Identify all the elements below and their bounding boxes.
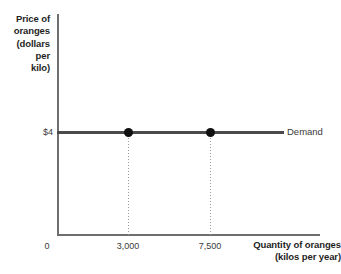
- drop-line-3000: [128, 135, 129, 235]
- x-axis-line: [57, 234, 320, 236]
- x-axis-title-line-1: Quantity of oranges: [225, 239, 341, 251]
- y-axis-line: [57, 14, 59, 236]
- demand-curve-chart: Price of oranges (dollars per kilo) $4 D…: [0, 0, 341, 274]
- demand-curve-line: [57, 131, 284, 134]
- x-axis-tick-label-3000: 3,000: [103, 241, 153, 251]
- y-axis-title-line-2: oranges: [0, 25, 50, 37]
- data-point-marker-3000: [124, 128, 133, 137]
- y-axis-title-line-4: per: [0, 50, 50, 62]
- demand-series-label: Demand: [287, 126, 323, 137]
- x-axis-title: Quantity of oranges (kilos per year): [225, 239, 341, 264]
- y-axis-tick-label-price: $4: [28, 127, 53, 137]
- y-axis-title: Price of oranges (dollars per kilo): [0, 13, 50, 74]
- data-point-marker-7500: [206, 128, 215, 137]
- x-axis-title-line-2: (kilos per year): [225, 251, 341, 263]
- y-axis-title-line-1: Price of: [0, 13, 50, 25]
- x-axis-tick-label-origin: 0: [34, 241, 60, 251]
- y-axis-title-line-5: kilo): [0, 62, 50, 74]
- y-axis-title-line-3: (dollars: [0, 38, 50, 50]
- drop-line-7500: [210, 135, 211, 235]
